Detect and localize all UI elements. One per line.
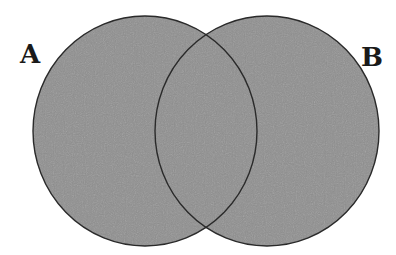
set-b-label: B [361,42,383,72]
set-a-label: A [19,39,41,69]
set-b-circle [155,16,379,246]
venn-diagram: A B [0,0,396,255]
